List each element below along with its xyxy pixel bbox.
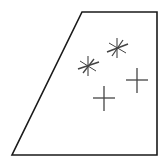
line-drawing-svg: [0, 0, 165, 162]
figure-canvas: [0, 0, 165, 162]
